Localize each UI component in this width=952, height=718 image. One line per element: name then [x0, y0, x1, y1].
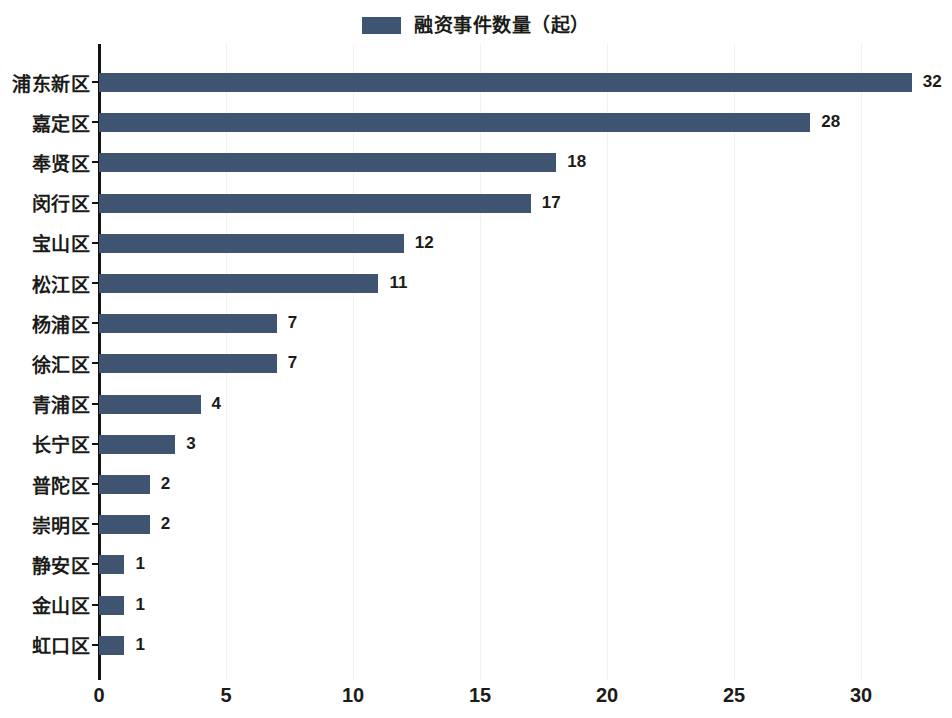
- bar[interactable]: [99, 73, 912, 92]
- bar-row: 闵行区17: [0, 183, 952, 223]
- y-axis-tick: [92, 362, 99, 364]
- bar-row: 青浦区4: [0, 384, 952, 424]
- y-axis-tick: [92, 322, 99, 324]
- category-label: 松江区: [0, 263, 90, 303]
- x-tick-label: 25: [704, 684, 764, 707]
- category-label: 虹口区: [0, 625, 90, 665]
- category-label: 普陀区: [0, 464, 90, 504]
- bar[interactable]: [99, 153, 556, 172]
- bar-row: 金山区1: [0, 585, 952, 625]
- bar[interactable]: [99, 194, 531, 213]
- bar-row: 静安区1: [0, 544, 952, 584]
- bar[interactable]: [99, 113, 810, 132]
- bar-value-label: 11: [389, 263, 407, 303]
- category-label: 金山区: [0, 585, 90, 625]
- y-axis-tick: [92, 483, 99, 485]
- bar-row: 杨浦区7: [0, 303, 952, 343]
- bar-value-label: 17: [542, 183, 561, 223]
- bar-value-label: 18: [567, 142, 586, 182]
- bar-chart: 融资事件数量（起） 浦东新区32嘉定区28奉贤区18闵行区17宝山区12松江区1…: [0, 0, 952, 718]
- category-label: 嘉定区: [0, 102, 90, 142]
- bar-value-label: 7: [288, 303, 297, 343]
- bar-row: 松江区11: [0, 263, 952, 303]
- bar-value-label: 1: [135, 544, 144, 584]
- bar-row: 崇明区2: [0, 504, 952, 544]
- bar[interactable]: [99, 395, 201, 414]
- category-label: 杨浦区: [0, 303, 90, 343]
- bar-value-label: 28: [821, 102, 840, 142]
- category-label: 青浦区: [0, 384, 90, 424]
- y-axis-tick: [92, 644, 99, 646]
- bar[interactable]: [99, 555, 124, 574]
- category-label: 徐汇区: [0, 343, 90, 383]
- x-tick-label: 15: [450, 684, 510, 707]
- y-axis-tick: [92, 443, 99, 445]
- bar[interactable]: [99, 274, 378, 293]
- bar-row: 虹口区1: [0, 625, 952, 665]
- y-axis-tick: [92, 403, 99, 405]
- y-axis-tick: [92, 282, 99, 284]
- bar[interactable]: [99, 596, 124, 615]
- bar-value-label: 2: [161, 504, 170, 544]
- y-axis-tick: [92, 604, 99, 606]
- category-label: 崇明区: [0, 504, 90, 544]
- category-label: 长宁区: [0, 424, 90, 464]
- bar-value-label: 7: [288, 343, 297, 383]
- y-axis-tick: [92, 202, 99, 204]
- y-axis-tick: [92, 523, 99, 525]
- bar[interactable]: [99, 314, 277, 333]
- bar[interactable]: [99, 234, 404, 253]
- category-label: 静安区: [0, 544, 90, 584]
- bar-value-label: 32: [923, 62, 942, 102]
- x-tick-label: 5: [196, 684, 256, 707]
- y-axis-tick: [92, 121, 99, 123]
- category-label: 浦东新区: [0, 62, 90, 102]
- bar-row: 长宁区3: [0, 424, 952, 464]
- bar-row: 奉贤区18: [0, 142, 952, 182]
- bar[interactable]: [99, 475, 150, 494]
- x-tick-label: 30: [831, 684, 891, 707]
- plot-area: 浦东新区32嘉定区28奉贤区18闵行区17宝山区12松江区11杨浦区7徐汇区7青…: [0, 0, 952, 718]
- category-label: 闵行区: [0, 183, 90, 223]
- bar[interactable]: [99, 515, 150, 534]
- y-axis-tick: [92, 161, 99, 163]
- bar[interactable]: [99, 354, 277, 373]
- category-label: 奉贤区: [0, 142, 90, 182]
- bar[interactable]: [99, 435, 175, 454]
- category-label: 宝山区: [0, 223, 90, 263]
- bar-value-label: 1: [135, 585, 144, 625]
- bar-value-label: 12: [415, 223, 434, 263]
- bar-value-label: 4: [212, 384, 221, 424]
- bar-value-label: 2: [161, 464, 170, 504]
- bar-row: 宝山区12: [0, 223, 952, 263]
- x-tick-label: 0: [69, 684, 129, 707]
- y-axis-tick: [92, 242, 99, 244]
- bar-row: 嘉定区28: [0, 102, 952, 142]
- y-axis-tick: [92, 563, 99, 565]
- bar-row: 普陀区2: [0, 464, 952, 504]
- y-axis-tick: [92, 81, 99, 83]
- bar-row: 浦东新区32: [0, 62, 952, 102]
- bar-value-label: 1: [135, 625, 144, 665]
- x-tick-label: 20: [577, 684, 637, 707]
- bar[interactable]: [99, 636, 124, 655]
- x-tick-label: 10: [323, 684, 383, 707]
- bar-value-label: 3: [186, 424, 195, 464]
- bar-row: 徐汇区7: [0, 343, 952, 383]
